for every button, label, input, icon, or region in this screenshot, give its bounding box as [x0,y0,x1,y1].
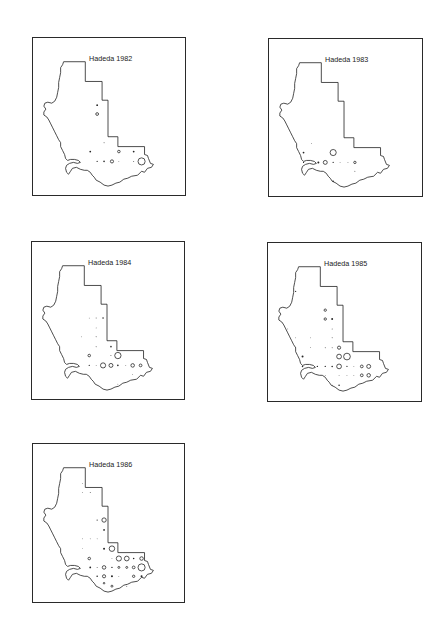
region-outline [280,63,390,187]
abundance-dot [323,160,327,164]
map-panel-3: Hadeda 1984 [31,241,185,400]
abundance-dot [344,353,351,360]
abundance-dot [295,291,296,292]
abundance-dot [317,161,319,163]
abundance-dot [138,564,145,571]
abundance-dot [360,365,363,368]
abundance-dot [97,519,98,520]
abundance-dot [303,162,304,163]
abundance-dot [97,538,98,539]
abundance-dot [89,567,91,569]
abundance-dot [82,483,83,484]
abundance-dot [111,575,113,577]
abundance-dot [117,384,118,385]
region-outline [44,62,154,186]
abundance-dot [103,161,105,163]
abundance-dot [118,161,119,162]
abundance-dot [303,152,305,154]
abundance-dot [295,347,296,348]
abundance-dot [96,328,97,329]
abundance-dot [310,347,311,348]
abundance-dot [295,337,296,338]
abundance-dot [324,318,326,320]
abundance-dot [338,384,340,386]
abundance-dot [367,364,371,368]
abundance-dot [109,363,113,367]
abundance-dot [110,355,111,356]
abundance-dot [102,317,104,319]
abundance-dot [89,318,90,319]
abundance-dot [97,161,98,162]
abundance-dot [89,151,91,153]
abundance-dot [96,104,98,106]
abundance-dots [89,104,145,165]
abundance-dot [100,363,105,368]
abundance-dot [82,538,83,539]
abundance-dot [367,374,371,378]
abundance-dot [348,162,349,163]
abundance-dot [131,364,135,368]
abundance-dot [302,356,304,358]
abundance-dot [141,575,143,577]
abundance-dot [325,366,326,367]
abundance-dots [287,291,370,386]
abundance-dot [117,365,119,367]
abundance-dot [332,385,333,386]
abundance-dot [346,366,347,367]
abundance-dot [332,180,334,182]
abundance-dot [124,556,129,561]
abundance-dot [96,365,97,366]
abundance-dot [96,113,99,116]
abundance-dot [88,557,91,560]
abundance-dot [353,366,354,367]
abundance-dot [310,337,311,338]
abundance-dot [110,160,113,163]
abundance-dot [115,352,121,358]
abundance-dot [96,576,98,578]
abundance-dot [104,142,105,143]
panel-title: Hadeda 1985 [324,259,367,268]
abundance-dot [126,566,128,568]
abundance-dot [330,149,336,155]
map-panel-5: Hadeda 1986 [32,443,185,603]
abundance-dot [118,150,121,153]
abundance-dot [82,492,83,493]
abundance-dot [337,364,342,369]
abundance-dot [97,567,98,568]
abundance-dot [360,374,363,377]
abundance-dot [332,347,333,348]
map-panel-1: Hadeda 1982 [32,37,186,196]
region-outline [279,267,389,391]
abundance-dot [90,538,91,539]
abundance-dot [331,366,333,368]
abundance-dot [325,347,326,348]
region-outline [43,266,153,390]
abundance-dot [331,318,333,320]
abundance-dot [125,365,126,366]
abundance-dot [116,556,121,561]
abundance-dot [337,354,342,359]
abundance-dot [109,546,115,552]
abundance-dot [111,585,113,587]
abundance-dot [82,548,83,549]
abundance-dot [140,557,144,561]
panel-title: Hadeda 1983 [325,55,368,64]
abundance-dot [337,346,340,349]
abundance-dot [133,151,135,153]
abundance-dot [118,566,120,568]
map-panel-4: Hadeda 1985 [267,242,422,402]
abundance-dot [132,575,134,577]
abundance-dot [102,566,106,570]
abundance-dot [90,492,91,493]
abundance-dot [103,548,105,550]
abundance-dot [133,558,135,560]
panel-title: Hadeda 1982 [89,54,132,63]
abundance-dot [332,328,333,329]
abundance-dot [302,366,304,368]
abundance-dot [96,346,97,347]
abundance-dot [340,162,341,163]
abundance-dot [112,558,113,559]
abundance-dot [89,365,90,366]
abundance-dots [82,483,145,587]
abundance-dot [132,374,133,375]
